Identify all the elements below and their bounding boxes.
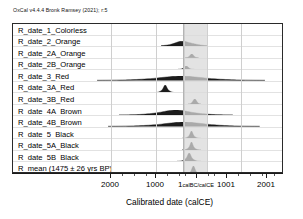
row-label: R_date_2_Orange — [18, 37, 81, 46]
highlight-band — [183, 24, 207, 172]
row-label: R_date_2B_Orange — [18, 60, 86, 69]
gridline — [111, 24, 112, 172]
x-axis-minor-tick — [185, 174, 186, 176]
plot-frame: R_date_1_ColorlessR_date_2_OrangeR_date_… — [12, 23, 283, 173]
x-axis-major-tick — [155, 174, 156, 178]
x-axis-minor-tick — [134, 174, 135, 176]
row-label: R_date_5B_Black — [18, 152, 79, 161]
x-axis-major-tick — [266, 174, 267, 178]
row-label: R_date_5A_Black — [18, 141, 79, 150]
row-label: R_date_4A_Brown — [18, 106, 82, 115]
x-axis-title: Calibrated date (calCE) — [0, 197, 303, 207]
row-label: R_date_1_Colorless — [18, 25, 87, 34]
x-axis-tick-label: 1calBC/calCE — [178, 180, 214, 189]
gridline — [184, 24, 185, 172]
x-axis-minor-tick — [146, 174, 147, 176]
x-axis-tick-label: 2001 — [257, 180, 275, 189]
x-axis-minor-tick — [167, 174, 168, 176]
x-axis-tick-label: 2000 — [101, 180, 119, 189]
row-label: R_mean (1475 ± 26 yrs BP) — [18, 164, 112, 173]
x-axis-minor-tick — [238, 174, 239, 176]
row-label: R_date_5_Black — [18, 129, 74, 138]
gridline — [241, 24, 242, 172]
row-label: R_date_3_Red — [18, 71, 69, 80]
x-axis-minor-tick — [208, 174, 209, 176]
x-axis-tick-label: 1000 — [146, 180, 164, 189]
x-axis-line — [12, 173, 283, 174]
row-label: R_date_2A_Orange — [18, 48, 86, 57]
x-axis-major-tick — [110, 174, 111, 178]
x-axis-major-tick — [196, 174, 197, 178]
gridline — [156, 24, 157, 172]
x-axis-minor-tick — [250, 174, 251, 176]
x-axis-title-text: Calibrated date (calCE) — [90, 197, 213, 207]
x-axis-minor-tick — [122, 174, 123, 176]
oxcal-credit-text: OxCal v4.4.4 Bronk Ramsey (2021); r:5 — [13, 7, 108, 13]
x-axis-tick-label: 1001 — [217, 180, 235, 189]
x-axis-minor-tick — [274, 174, 275, 176]
row-label: R_date_3A_Red — [18, 83, 74, 92]
x-axis-minor-tick — [214, 174, 215, 176]
x-axis-minor-tick — [179, 174, 180, 176]
row-label: R_date_4B_Brown — [18, 118, 82, 127]
row-label: R_date_3B_Red — [18, 94, 74, 103]
x-axis-minor-tick — [262, 174, 263, 176]
oxcal-plot-figure: OxCal v4.4.4 Bronk Ramsey (2021); r:5 R_… — [0, 0, 303, 219]
x-axis-major-tick — [226, 174, 227, 178]
gridline — [207, 24, 208, 172]
